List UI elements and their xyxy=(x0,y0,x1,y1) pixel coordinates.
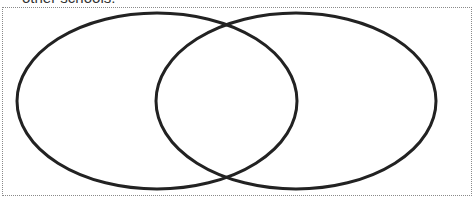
venn-diagram xyxy=(0,0,453,208)
